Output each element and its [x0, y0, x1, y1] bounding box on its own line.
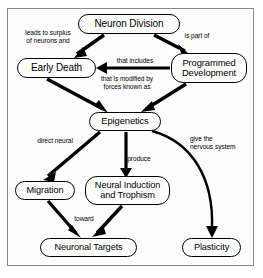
edge-label-is-part-of: is part of	[175, 32, 219, 40]
node-neuronal-targets[interactable]: Neuronal Targets	[40, 238, 137, 257]
node-neuron-division[interactable]: Neuron Division	[78, 14, 180, 34]
node-neural-induction-and-trophism[interactable]: Neural Induction and Trophism	[85, 176, 170, 205]
edge-label-that-includes: that includes	[108, 57, 162, 65]
edge-label-leads-to-surplus: leads to surplus of neurons and	[14, 29, 82, 44]
edge-label-produce: produce	[121, 155, 157, 163]
edge-label-give-the-nervous-system: give the nervous system	[190, 135, 254, 150]
node-early-death[interactable]: Early Death	[17, 58, 96, 78]
edge-label-toward: toward	[68, 215, 100, 223]
node-plasticity[interactable]: Plasticity	[182, 238, 241, 257]
edge-label-that-is-modified-by: that is modified by forces known as	[87, 75, 167, 90]
node-epigenetics[interactable]: Epigenetics	[89, 112, 161, 131]
concept-map-canvas: Neuron Division Early Death Programmed D…	[0, 0, 263, 278]
node-migration[interactable]: Migration	[15, 181, 75, 200]
node-programmed-development[interactable]: Programmed Development	[171, 53, 247, 83]
edge-label-direct-neural: direct neural	[29, 137, 81, 145]
